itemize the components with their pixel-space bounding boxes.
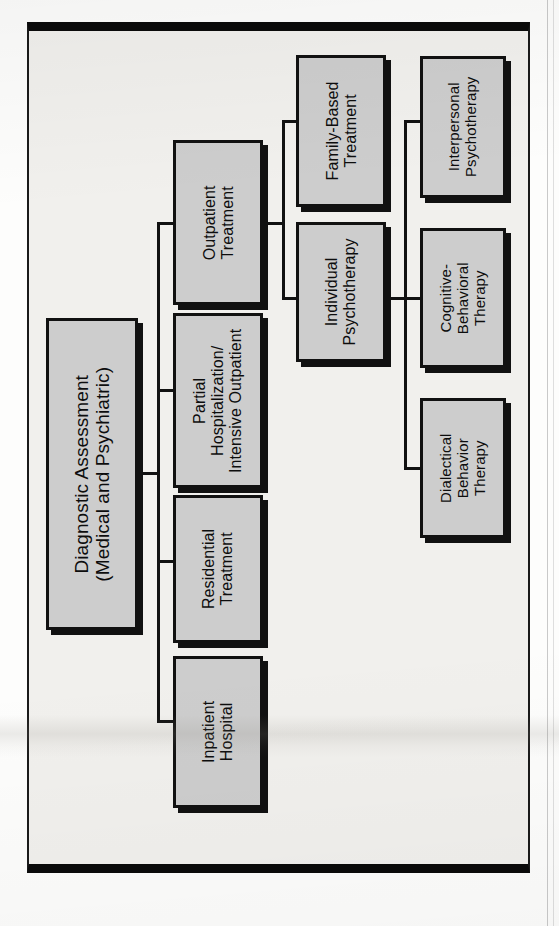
node-label: Diagnostic Assessment (Medical and Psych… bbox=[71, 367, 114, 582]
connector-spine-level4 bbox=[404, 120, 407, 470]
node-diagnostic-assessment[interactable]: Diagnostic Assessment (Medical and Psych… bbox=[46, 318, 138, 630]
connector-spine-level2 bbox=[157, 222, 160, 722]
node-interpersonal-psychotherapy[interactable]: Interpersonal Psychotherapy bbox=[420, 56, 506, 198]
connector-spine-to-partial bbox=[157, 389, 173, 392]
connector-spine-level3 bbox=[282, 120, 285, 300]
node-label: Cognitive- Behavioral Therapy bbox=[438, 262, 488, 334]
node-outpatient-treatment[interactable]: Outpatient Treatment bbox=[173, 140, 263, 305]
flowchart-diagram: Diagnostic Assessment (Medical and Psych… bbox=[0, 0, 559, 926]
connector-spine-to-residential bbox=[157, 560, 173, 563]
node-partial-hospitalization[interactable]: Partial Hospitalization/ Intensive Outpa… bbox=[173, 313, 263, 488]
node-individual-psychotherapy[interactable]: Individual Psychotherapy bbox=[296, 222, 386, 362]
node-label: Interpersonal Psychotherapy bbox=[446, 77, 480, 178]
connector-root-stub bbox=[138, 472, 159, 475]
node-label: Partial Hospitalization/ Intensive Outpa… bbox=[191, 328, 245, 472]
node-label: Residential Treatment bbox=[200, 529, 236, 609]
node-label: Family-Based Treatment bbox=[323, 81, 359, 180]
node-inpatient-hospital[interactable]: Inpatient Hospital bbox=[173, 656, 263, 808]
connector-outpatient-stub bbox=[263, 222, 284, 225]
connector-spine-to-cbt bbox=[404, 297, 420, 300]
connector-spine-to-outpatient bbox=[157, 222, 173, 225]
connector-spine-to-individual bbox=[282, 297, 296, 300]
node-label: Outpatient Treatment bbox=[200, 185, 236, 260]
node-label: Dialectical Behavior Therapy bbox=[438, 433, 488, 502]
node-cognitive-behavioral-therapy[interactable]: Cognitive- Behavioral Therapy bbox=[420, 228, 506, 368]
node-label: Inpatient Hospital bbox=[200, 701, 236, 763]
connector-spine-to-family-based bbox=[282, 120, 296, 123]
node-family-based-treatment[interactable]: Family-Based Treatment bbox=[296, 55, 386, 207]
connector-spine-to-inpatient bbox=[157, 720, 173, 723]
node-dialectical-behavior-therapy[interactable]: Dialectical Behavior Therapy bbox=[420, 398, 506, 538]
connector-individual-stub bbox=[385, 297, 406, 300]
scanned-page: Diagnostic Assessment (Medical and Psych… bbox=[0, 0, 559, 926]
connector-spine-to-interpersonal bbox=[404, 120, 420, 123]
node-label: Individual Psychotherapy bbox=[323, 238, 359, 345]
node-residential-treatment[interactable]: Residential Treatment bbox=[173, 495, 263, 643]
connector-spine-to-dbt bbox=[404, 467, 420, 470]
